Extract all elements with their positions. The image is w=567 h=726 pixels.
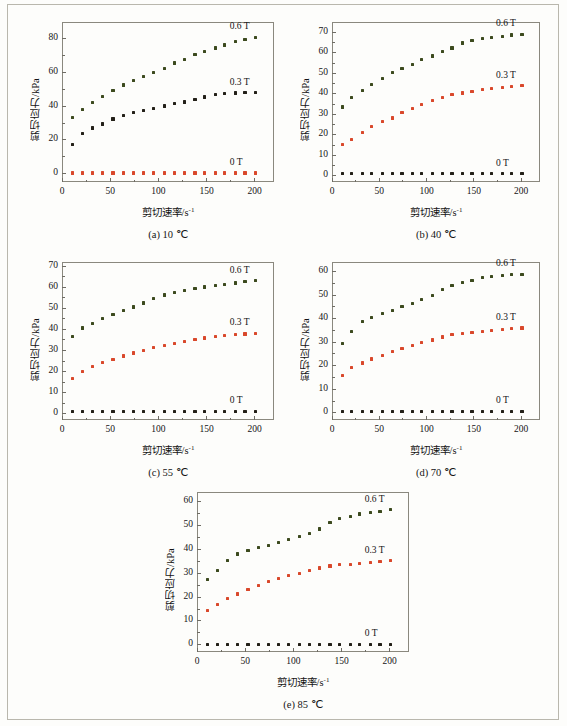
data-point [378, 643, 381, 646]
data-point [287, 574, 290, 577]
data-point [236, 592, 239, 595]
data-point [328, 564, 331, 567]
x-minor-tick-e-0 [221, 650, 222, 653]
panel-caption-e: (e) 85 ℃ [157, 698, 449, 710]
data-point [318, 527, 321, 530]
data-point [287, 643, 290, 646]
data-point [389, 559, 392, 562]
x-tick-e-1 [245, 648, 246, 652]
x-tick-e-3 [341, 648, 342, 652]
y-tick-e-1 [197, 620, 201, 621]
data-point [369, 561, 372, 564]
y-minor-tick-e-3 [197, 561, 200, 562]
data-point [338, 643, 341, 646]
data-point [328, 643, 331, 646]
data-point [378, 560, 381, 563]
y-minor-tick-e-2 [197, 585, 200, 586]
data-point [349, 563, 352, 566]
data-point [206, 578, 209, 581]
data-point [206, 643, 209, 646]
data-point [287, 538, 290, 541]
data-point [369, 511, 372, 514]
data-point [226, 597, 229, 600]
x-minor-tick-e-3 [365, 650, 366, 653]
y-tick-e-0 [197, 644, 201, 645]
y-tick-e-2 [197, 597, 201, 598]
y-minor-tick-e-5 [197, 513, 200, 514]
data-point [216, 643, 219, 646]
data-point [349, 643, 352, 646]
data-point [328, 521, 331, 524]
data-point [349, 515, 352, 518]
data-point [246, 588, 249, 591]
data-point [226, 643, 229, 646]
y-tick-e-6 [197, 501, 201, 502]
data-point [246, 643, 249, 646]
data-point [206, 609, 209, 612]
data-point [308, 643, 311, 646]
series-label-e-1: 0.3 T [365, 545, 385, 555]
x-axis-title-text-e: 剪切速率/s [277, 677, 324, 688]
series-label-e-2: 0 T [365, 628, 378, 638]
y-tick-label-e-0: 0 [167, 638, 193, 648]
data-point [358, 512, 361, 515]
data-point [389, 643, 392, 646]
data-point [338, 517, 341, 520]
y-minor-tick-e-4 [197, 537, 200, 538]
x-minor-tick-e-1 [269, 650, 270, 653]
x-tick-e-2 [293, 648, 294, 652]
data-point [298, 643, 301, 646]
x-tick-label-e-1: 50 [229, 656, 261, 666]
x-tick-e-0 [197, 648, 198, 652]
y-tick-e-3 [197, 573, 201, 574]
x-minor-tick-e-2 [317, 650, 318, 653]
y-tick-label-e-5: 50 [167, 519, 193, 529]
data-point [216, 603, 219, 606]
data-point [378, 510, 381, 513]
panel-e: 0102030405060050100150200剪切应力/kPa剪切速率/s-… [0, 0, 567, 726]
data-point [267, 544, 270, 547]
data-point [267, 580, 270, 583]
data-point [338, 563, 341, 566]
y-axis-title-e: 剪切应力/kPa [163, 530, 178, 630]
data-point [216, 569, 219, 572]
data-point [236, 643, 239, 646]
data-point [318, 566, 321, 569]
data-point [308, 532, 311, 535]
y-minor-tick-e-1 [197, 609, 200, 610]
series-label-e-0: 0.6 T [365, 494, 385, 504]
figure-multi-panel: 020406080050100150200剪切应力/kPa剪切速率/s-1(a)… [0, 0, 567, 726]
data-point [267, 643, 270, 646]
data-point [318, 643, 321, 646]
data-point [298, 535, 301, 538]
x-axis-title-exponent-e: -1 [324, 676, 330, 684]
y-tick-e-5 [197, 525, 201, 526]
data-point [298, 572, 301, 575]
y-minor-tick-e-0 [197, 632, 200, 633]
y-tick-label-e-6: 60 [167, 495, 193, 505]
x-tick-e-4 [389, 648, 390, 652]
x-tick-label-e-0: 0 [181, 656, 213, 666]
data-point [246, 549, 249, 552]
data-point [277, 643, 280, 646]
data-point [358, 643, 361, 646]
y-tick-e-4 [197, 549, 201, 550]
x-axis-title-e: 剪切速率/s-1 [197, 674, 409, 689]
x-tick-label-e-4: 200 [374, 656, 406, 666]
data-point [369, 643, 372, 646]
data-point [236, 552, 239, 555]
x-tick-label-e-3: 150 [326, 656, 358, 666]
data-point [257, 643, 260, 646]
data-point [226, 559, 229, 562]
x-tick-label-e-2: 100 [277, 656, 309, 666]
data-point [358, 562, 361, 565]
